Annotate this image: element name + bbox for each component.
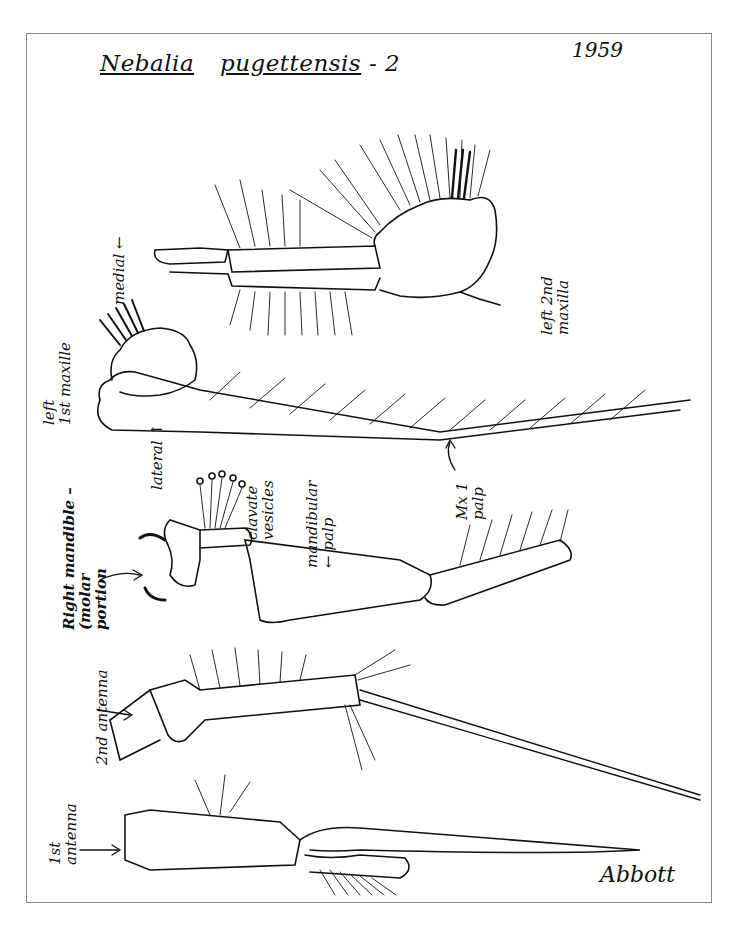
label-clavate-vesicles: clavate vesicles: [245, 480, 277, 540]
label-medial: medial ←: [112, 236, 128, 305]
second-antenna-drawing: [110, 648, 700, 800]
first-antenna-drawing: [125, 775, 640, 895]
label-mandibular-palp: mandibular ← palp: [305, 481, 337, 568]
first-maxilla-drawing: [98, 300, 690, 440]
label-right-mandible: Right mandible – (molar portion: [62, 487, 109, 630]
label-left-1st-maxilla: left 1st maxille: [42, 342, 74, 425]
artist-signature: Abbott: [600, 862, 675, 887]
label-lateral: lateral ↑: [150, 423, 166, 490]
mandible-drawing: [140, 471, 571, 623]
second-maxilla-drawing: [155, 135, 500, 335]
label-second-antenna: 2nd antenna: [95, 670, 111, 765]
label-first-antenna: 1st antenna: [48, 803, 80, 865]
appendage-drawings: [0, 0, 739, 929]
label-mx1-palp: Mx 1 palp: [455, 482, 487, 520]
label-left-2nd-maxilla: left 2nd maxilla: [540, 276, 572, 335]
